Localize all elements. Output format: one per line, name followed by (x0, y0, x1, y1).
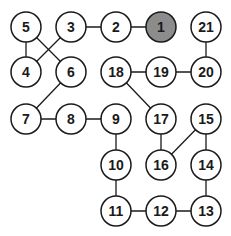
node-label: 17 (153, 111, 169, 127)
node-2: 2 (101, 12, 131, 42)
node-label: 18 (108, 64, 124, 80)
node-label: 9 (112, 111, 120, 127)
node-label: 6 (67, 64, 75, 80)
node-label: 2 (112, 19, 120, 35)
node-label: 21 (198, 19, 214, 35)
node-label: 7 (22, 111, 30, 127)
node-1: 1 (146, 12, 176, 42)
node-8: 8 (56, 104, 86, 134)
node-11: 11 (101, 196, 131, 226)
node-20: 20 (191, 57, 221, 87)
node-4: 4 (11, 57, 41, 87)
node-label: 13 (198, 203, 214, 219)
path-diagram: 123456789101112131415161718192021 (0, 0, 231, 236)
node-17: 17 (146, 104, 176, 134)
node-label: 8 (67, 111, 75, 127)
node-label: 16 (153, 157, 169, 173)
node-label: 4 (22, 64, 30, 80)
node-19: 19 (146, 57, 176, 87)
node-label: 14 (198, 157, 214, 173)
node-18: 18 (101, 57, 131, 87)
node-6: 6 (56, 57, 86, 87)
node-13: 13 (191, 196, 221, 226)
node-9: 9 (101, 104, 131, 134)
node-label: 15 (198, 111, 214, 127)
node-label: 11 (109, 203, 124, 219)
node-label: 1 (157, 19, 165, 35)
node-16: 16 (146, 150, 176, 180)
node-label: 12 (153, 203, 169, 219)
node-21: 21 (191, 12, 221, 42)
node-label: 20 (198, 64, 214, 80)
node-15: 15 (191, 104, 221, 134)
node-14: 14 (191, 150, 221, 180)
node-label: 10 (108, 157, 124, 173)
node-5: 5 (11, 12, 41, 42)
node-label: 5 (22, 19, 30, 35)
node-label: 19 (153, 64, 169, 80)
node-10: 10 (101, 150, 131, 180)
node-12: 12 (146, 196, 176, 226)
node-7: 7 (11, 104, 41, 134)
node-3: 3 (56, 12, 86, 42)
node-label: 3 (67, 19, 75, 35)
